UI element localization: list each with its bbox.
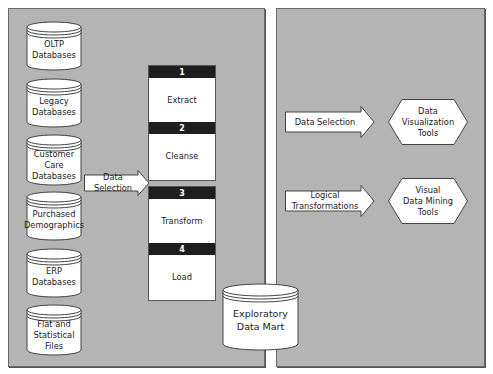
source-label: Purchased Demographics (26, 204, 82, 236)
arrow-label: Data Selection (285, 112, 365, 132)
source-label: Flat and Statistical Files (26, 317, 82, 353)
source-flat-statistical-files: Flat and Statistical Files (26, 303, 82, 357)
data-mart-label: Exploratory Data Mart (222, 302, 299, 338)
step-number: 4 (149, 243, 215, 255)
source-label: ERP Databases (26, 261, 82, 293)
visual-data-mining-tools: Visual Data Mining Tools (388, 178, 468, 224)
step-transform: Transform (149, 199, 215, 243)
step-extract: Extract (149, 78, 215, 122)
step-cleanse: Cleanse (149, 134, 215, 178)
tool-label: Data Visualization Tools (388, 99, 468, 145)
source-label: Customer Care Databases (26, 147, 82, 183)
arrow-label: Logical Transformations (285, 189, 365, 213)
step-load: Load (149, 255, 215, 298)
data-visualization-tools: Data Visualization Tools (388, 99, 468, 145)
arrow-label: Data Selection (84, 175, 142, 191)
exploratory-data-mart: Exploratory Data Mart (222, 282, 299, 352)
right-data-selection-arrow: Data Selection (285, 106, 375, 138)
data-selection-arrow: Data Selection (84, 170, 150, 196)
step-number: 3 (149, 187, 215, 199)
logical-transformations-arrow: Logical Transformations (285, 185, 375, 217)
source-label: OLTP Databases (26, 34, 82, 66)
source-purchased-demographics: Purchased Demographics (26, 190, 82, 242)
step-number: 1 (149, 66, 215, 78)
source-oltp-databases: OLTP Databases (26, 20, 82, 72)
source-legacy-databases: Legacy Databases (26, 77, 82, 129)
source-label: Legacy Databases (26, 91, 82, 123)
etl-steps-lower: 3 Transform 4 Load (148, 186, 216, 301)
source-erp-databases: ERP Databases (26, 247, 82, 299)
step-number: 2 (149, 122, 215, 134)
tool-label: Visual Data Mining Tools (388, 178, 468, 224)
source-customer-care-databases: Customer Care Databases (26, 133, 82, 187)
etl-steps-upper: 1 Extract 2 Cleanse (148, 65, 216, 181)
